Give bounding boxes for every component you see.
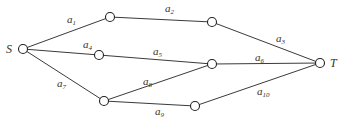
network-diagram: a1a2a3a4a5a6a7a8a9a10 S T (0, 0, 347, 125)
network-graph-canvas: a1a2a3a4a5a6a7a8a9a10 S T (0, 0, 347, 125)
source-label-S: S (6, 42, 12, 56)
edge-label-a8: a8 (143, 75, 153, 89)
node-n3 (100, 97, 109, 106)
edge-label-a7: a7 (57, 77, 67, 91)
node-t (316, 59, 325, 68)
edge-label-a3: a3 (276, 32, 286, 46)
edge-a2 (110, 17, 212, 22)
edge-label-a9: a9 (155, 105, 165, 119)
node-n2 (95, 51, 104, 60)
edge-a9 (104, 101, 195, 106)
edge-a3 (212, 22, 320, 63)
edge-label-a10: a10 (257, 85, 270, 99)
edge-a8 (104, 64, 212, 101)
terminal-labels-layer: S T (6, 42, 338, 70)
edge-a7 (23, 49, 104, 101)
edge-label-a5: a5 (153, 45, 163, 59)
node-n6 (191, 102, 200, 111)
edge-a6 (212, 63, 320, 64)
node-s (19, 45, 28, 54)
edges-layer (23, 17, 320, 106)
node-n5 (208, 60, 217, 69)
edge-label-a2: a2 (165, 2, 175, 16)
sink-label-T: T (330, 56, 338, 70)
edge-label-a1: a1 (67, 13, 76, 27)
node-n4 (208, 18, 217, 27)
edge-label-a4: a4 (83, 38, 93, 52)
edge-label-a6: a6 (255, 51, 265, 65)
nodes-layer (19, 13, 325, 111)
node-n1 (106, 13, 115, 22)
